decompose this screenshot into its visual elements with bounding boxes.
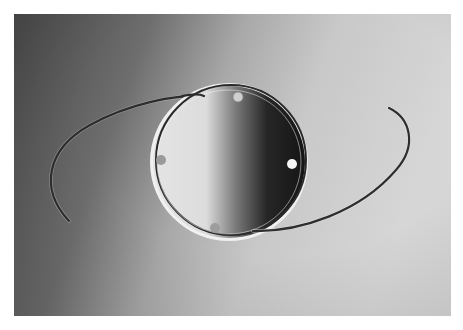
positioning-hole-bottom [210,223,220,233]
positioning-hole-right [287,159,297,169]
lens-photograph [14,14,451,316]
lens-illustration [14,14,451,316]
positioning-hole-left [156,155,166,165]
positioning-hole-top [233,92,243,102]
